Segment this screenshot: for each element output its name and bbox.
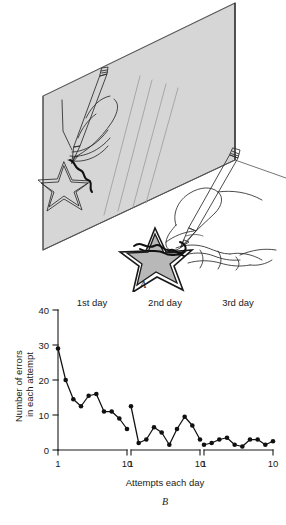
data-point: [175, 427, 180, 432]
panel-b-svg: 0 10 20 30 40 Number of errors in each a…: [0, 292, 286, 525]
svg-text:20: 20: [38, 375, 49, 386]
data-point: [217, 437, 222, 442]
day-2-series-points: [129, 404, 203, 447]
data-point: [125, 427, 130, 432]
panel-b-chart: 0 10 20 30 40 Number of errors in each a…: [0, 292, 286, 525]
data-point: [117, 416, 122, 421]
svg-text:3rd day: 3rd day: [222, 297, 254, 308]
day-1-series-line: [58, 349, 127, 430]
data-point: [232, 442, 237, 447]
svg-text:10: 10: [268, 458, 279, 469]
data-point: [79, 404, 84, 409]
data-point: [182, 414, 187, 419]
day-2-series-line: [131, 406, 200, 445]
svg-text:2nd day: 2nd day: [148, 297, 182, 308]
svg-text:10: 10: [38, 410, 49, 421]
panel-a-illustration: A: [0, 0, 286, 292]
table-surface-line: [235, 160, 286, 178]
panel-a-svg: A: [0, 0, 286, 292]
data-point: [240, 444, 245, 449]
svg-text:30: 30: [38, 340, 49, 351]
data-point: [71, 397, 76, 402]
day-3-group: 3rd day 1 10: [201, 297, 278, 469]
data-point: [248, 437, 253, 442]
data-point: [56, 346, 61, 351]
svg-text:40: 40: [38, 305, 49, 316]
day-3-series-points: [202, 435, 276, 448]
figure-mirror-drawing: A 0 10 20 30 40 Number: [0, 0, 286, 525]
data-point: [86, 393, 91, 398]
data-point: [159, 430, 164, 435]
svg-text:1: 1: [128, 458, 133, 469]
data-point: [144, 437, 149, 442]
data-point: [152, 425, 157, 430]
y-axis-ticks: [53, 310, 58, 450]
data-point: [271, 439, 276, 444]
svg-text:Number of errors: Number of errors: [13, 350, 24, 422]
data-point: [63, 378, 68, 383]
day-1-series-points: [56, 346, 130, 431]
data-point: [263, 442, 268, 447]
panel-b-label: B: [162, 496, 168, 507]
svg-text:in each attempt: in each attempt: [24, 352, 35, 417]
data-point: [136, 441, 141, 446]
svg-text:1: 1: [201, 458, 206, 469]
x-axis-title: Attempts each day: [126, 477, 205, 488]
data-point: [225, 435, 230, 440]
data-point: [129, 404, 134, 409]
y-axis-tick-labels: 0 10 20 30 40: [38, 305, 49, 456]
panel-a-label: A: [139, 279, 147, 290]
svg-text:0: 0: [44, 445, 49, 456]
day-3-series-line: [204, 438, 273, 447]
day-1-group: 1st day 1 10: [55, 297, 132, 469]
data-point: [198, 437, 203, 442]
data-point: [102, 409, 107, 414]
data-point: [94, 392, 99, 397]
data-point: [255, 437, 260, 442]
svg-text:1: 1: [55, 458, 60, 469]
data-point: [109, 409, 114, 414]
data-point: [202, 442, 207, 447]
data-point: [209, 441, 214, 446]
svg-text:1st day: 1st day: [77, 297, 108, 308]
data-point: [190, 423, 195, 428]
table-star-shape: [120, 228, 192, 292]
day-2-group: 2nd day 1 10: [128, 297, 205, 469]
data-point: [167, 442, 172, 447]
y-axis-title: Number of errors in each attempt: [13, 350, 35, 422]
